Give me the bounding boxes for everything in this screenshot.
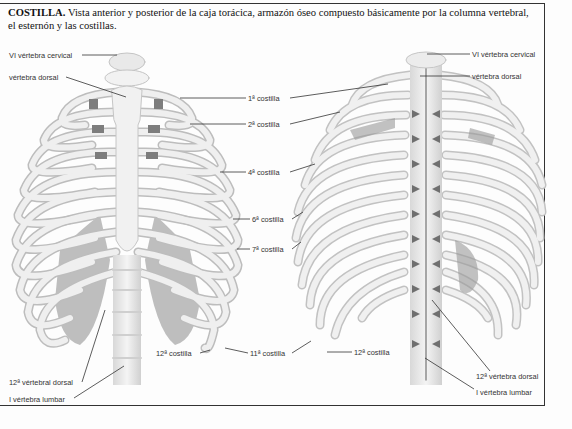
label-costilla-6: 6ª costilla	[252, 215, 284, 224]
posterior-rib-cage	[296, 52, 542, 385]
label-anterior-vertebra-dorsal: vértebra dorsal	[9, 73, 58, 82]
label-anterior-vi-cervical: VI vértebra cervical	[9, 51, 72, 60]
label-costilla-2: 2ª costilla	[248, 120, 280, 129]
label-posterior-costilla-12: 12ª costilla	[354, 348, 390, 357]
label-anterior-i-vertebra-lumbar: I vértebra lumbar	[9, 395, 65, 404]
label-posterior-vi-cervical: VI vértebra cervical	[472, 50, 535, 59]
label-costilla-7: 7ª costilla	[252, 245, 284, 254]
label-costilla-1: 1ª costilla	[248, 94, 280, 103]
rib-cage-illustration	[0, 0, 572, 429]
label-costilla-11: 11ª costilla	[250, 349, 285, 358]
anterior-rib-cage	[16, 53, 238, 385]
label-anterior-costilla-12: 12ª costilla	[156, 349, 192, 358]
label-anterior-12-vertebral-dorsal: 12ª vértebral dorsal	[9, 378, 73, 387]
label-posterior-i-vertebra-lumbar: I vértebra lumbar	[476, 388, 532, 397]
label-posterior-vertebra-dorsal: vértebra dorsal	[472, 72, 521, 81]
label-posterior-12-vertebra-dorsal: 12ª vértebra dorsal	[476, 372, 538, 381]
label-costilla-4: 4ª costilla	[248, 168, 280, 177]
